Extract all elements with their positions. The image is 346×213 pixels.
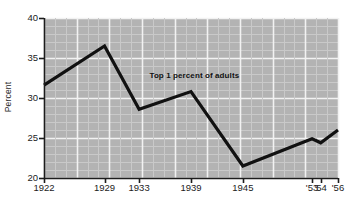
x-axis-tick-label: '56	[332, 183, 344, 193]
x-axis-tick-label: '54	[315, 183, 327, 193]
x-axis-tick-label: 1922	[33, 183, 54, 193]
chart-container: Percent 2025303540 19221929193319391945'…	[0, 0, 346, 213]
series-annotation-label: Top 1 percent of adults	[149, 71, 239, 80]
x-axis-tick-label: 1929	[94, 183, 115, 193]
x-axis-tick-label: 1945	[232, 183, 253, 193]
x-axis-tick-label: 1939	[180, 183, 201, 193]
x-axis-tick-label: 1933	[129, 183, 150, 193]
